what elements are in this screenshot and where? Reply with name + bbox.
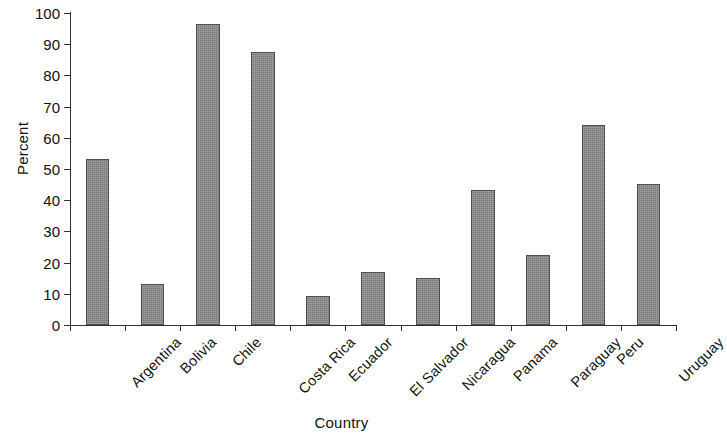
x-axis-tick: [180, 325, 181, 331]
y-axis-tick: [64, 294, 70, 295]
x-axis-tick: [70, 325, 71, 331]
y-axis-tick-label: 90: [18, 37, 60, 52]
y-axis-tick: [64, 200, 70, 201]
x-axis-tick: [456, 325, 457, 331]
x-axis-tick: [566, 325, 567, 331]
bar-costa-rica: [251, 52, 275, 325]
bar-paraguay: [526, 255, 550, 325]
bar-argentina: [86, 159, 110, 325]
x-axis-tick: [401, 325, 402, 331]
bar-bolivia: [141, 284, 165, 325]
y-axis-tick-label: 60: [18, 130, 60, 145]
x-axis-category-label: El Salvador: [406, 334, 471, 399]
y-axis-tick: [64, 138, 70, 139]
y-axis-tick: [64, 107, 70, 108]
x-axis-tick: [621, 325, 622, 331]
x-axis-title: Country: [0, 414, 683, 431]
y-axis-tick: [64, 263, 70, 264]
y-axis-tick-label: 30: [18, 224, 60, 239]
bar-panama: [471, 190, 495, 325]
x-axis-tick: [676, 325, 677, 331]
y-axis-tick-label: 70: [18, 99, 60, 114]
bar-nicaragua: [416, 278, 440, 325]
y-axis-tick: [64, 231, 70, 232]
x-axis-tick: [235, 325, 236, 331]
y-axis-tick: [64, 13, 70, 14]
x-axis-tick: [345, 325, 346, 331]
x-axis-category-label: Uruguay: [676, 334, 727, 385]
bar-ecuador: [306, 296, 330, 325]
x-axis-tick: [511, 325, 512, 331]
y-axis-tick-label: 40: [18, 193, 60, 208]
x-axis-category-label: Chile: [229, 334, 264, 369]
y-axis-tick-label: 20: [18, 255, 60, 270]
y-axis-tick-label: 100: [18, 6, 60, 21]
y-axis-tick-label: 50: [18, 162, 60, 177]
x-axis-category-label: Paraguay: [568, 334, 624, 390]
x-axis-category-label: Costa Rica: [295, 334, 358, 397]
y-axis-line: [70, 12, 71, 326]
y-axis-tick: [64, 44, 70, 45]
bar-uruguay: [637, 184, 661, 325]
bar-el-salvador: [361, 272, 385, 325]
x-axis-category-label: Bolivia: [177, 334, 220, 377]
y-axis-tick-label: 80: [18, 68, 60, 83]
x-axis-tick: [290, 325, 291, 331]
x-axis-category-label: Panama: [510, 334, 560, 384]
y-axis-tick-label: 0: [18, 318, 60, 333]
y-axis-tick-label: 10: [18, 286, 60, 301]
x-axis-category-label: Argentina: [127, 334, 183, 390]
y-axis-tick: [64, 169, 70, 170]
x-axis-line: [70, 325, 677, 326]
x-axis-tick: [125, 325, 126, 331]
bar-peru: [582, 125, 606, 325]
y-axis-tick: [64, 75, 70, 76]
bar-chile: [196, 24, 220, 325]
